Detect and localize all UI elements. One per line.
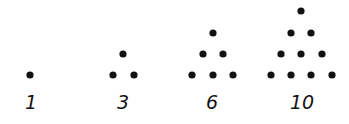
figure-label: 3	[117, 91, 129, 113]
figure-6: 6	[188, 29, 236, 113]
dot	[287, 29, 294, 36]
figure-10: 10	[267, 7, 335, 113]
figure-label: 10	[290, 91, 314, 113]
dot	[188, 71, 195, 78]
dot	[307, 71, 314, 78]
dot	[209, 29, 216, 36]
dot	[287, 71, 294, 78]
dot	[130, 71, 137, 78]
dot	[229, 71, 236, 78]
dot	[297, 50, 304, 57]
dot	[209, 71, 216, 78]
figure-label: 6	[206, 91, 218, 113]
dot	[119, 50, 126, 57]
dot	[267, 71, 274, 78]
dot	[219, 50, 226, 57]
dot	[199, 50, 206, 57]
triangular-numbers-diagram: 1 3 6 10	[0, 0, 349, 124]
figure-label: 1	[25, 91, 37, 113]
figure-3: 3	[109, 50, 137, 113]
figure-1: 1	[25, 71, 37, 113]
dot	[277, 50, 284, 57]
dot	[109, 71, 116, 78]
dot	[328, 71, 335, 78]
dot	[26, 71, 33, 78]
dot	[318, 50, 325, 57]
dot	[297, 7, 304, 14]
dot	[307, 29, 314, 36]
